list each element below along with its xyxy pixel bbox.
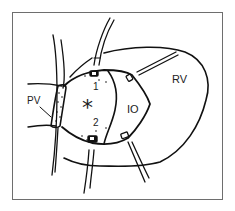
label-io: IO bbox=[127, 104, 139, 115]
vessel-top-b bbox=[99, 20, 114, 65]
pledget-bottom bbox=[88, 136, 97, 142]
label-rv: RV bbox=[172, 74, 187, 85]
vessel-bottom-a bbox=[84, 150, 89, 193]
label-defect-asterisk: * bbox=[82, 97, 93, 119]
pv-pointer-arrow bbox=[40, 107, 51, 117]
vessel-bottom-right-a bbox=[128, 142, 145, 182]
vessel-upper-right-2 bbox=[139, 55, 178, 75]
vessel-upper-right bbox=[137, 52, 176, 72]
pledget-top bbox=[90, 71, 98, 76]
pv-patch bbox=[51, 85, 66, 128]
pv-vessel-right bbox=[61, 40, 64, 88]
upper-left-arc bbox=[70, 58, 92, 77]
vessel-bottom-b bbox=[90, 150, 94, 188]
label-suture-2: 2 bbox=[93, 118, 99, 128]
label-pv: PV bbox=[27, 96, 40, 106]
label-suture-1: 1 bbox=[93, 82, 99, 92]
